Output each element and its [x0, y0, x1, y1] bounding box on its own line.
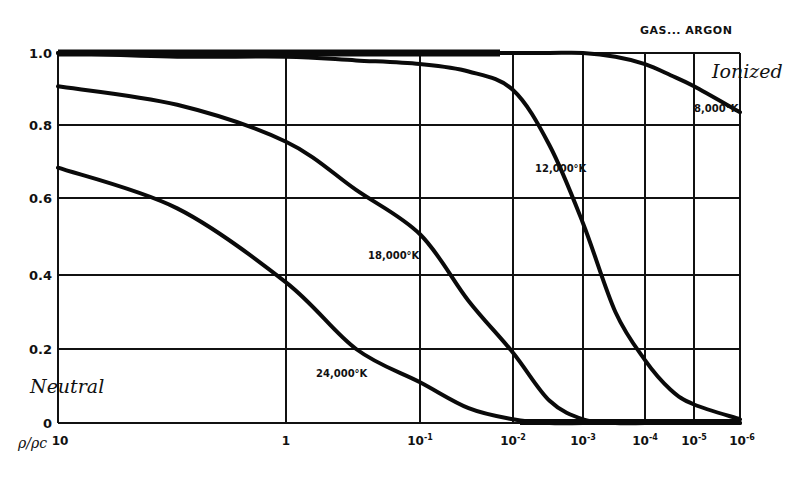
x-tick: 10-2	[500, 433, 526, 448]
x-tick: 1	[282, 434, 290, 448]
chart-title: GAS... ARGON	[640, 24, 732, 37]
data-curves	[58, 53, 740, 424]
x-axis-ticks: 10 1 10-1 10-2 10-3 10-4 10-5 10-6	[52, 433, 756, 448]
gridlines	[58, 53, 740, 423]
neutral-annotation: Neutral	[29, 375, 104, 397]
x-axis-label: ρ/ρc	[17, 435, 47, 451]
y-tick: 0.2	[29, 342, 52, 357]
x-tick: 10	[52, 434, 69, 448]
y-tick: 0.4	[29, 268, 52, 283]
y-tick: 0.6	[29, 191, 52, 206]
x-tick: 10-4	[632, 433, 658, 448]
x-tick: 10-5	[681, 433, 707, 448]
y-tick: 1.0	[29, 46, 52, 61]
curve-label-18000k: 18,000°K	[368, 250, 421, 261]
ionized-annotation: Ionized	[711, 60, 783, 82]
x-tick: 10-3	[570, 433, 596, 448]
y-tick: 0	[43, 416, 52, 431]
y-tick: 0.8	[29, 118, 52, 133]
x-tick: 10-6	[729, 433, 755, 448]
x-tick: 10-1	[407, 433, 433, 448]
y-axis-ticks: 1.0 0.8 0.6 0.4 0.2 0	[29, 46, 52, 431]
curve-24000k	[58, 168, 740, 424]
curve-label-24000k: 24,000°K	[316, 368, 369, 379]
ionization-chart: 1.0 0.8 0.6 0.4 0.2 0 10 1 10-1 10-2 10-…	[0, 0, 804, 478]
curve-12000k	[58, 53, 740, 419]
curve-label-12000k: 12,000°K	[535, 163, 588, 174]
curve-label-8000k: 8,000°K	[694, 103, 740, 114]
